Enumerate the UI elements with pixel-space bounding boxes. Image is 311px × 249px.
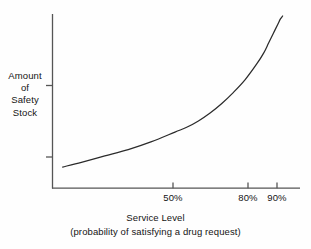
y-axis-label-line-4: Stock bbox=[2, 107, 48, 119]
safety-stock-curve bbox=[63, 16, 283, 167]
y-axis-label-line-1: Amount bbox=[2, 70, 48, 82]
x-axis-title: Service Level bbox=[0, 212, 311, 223]
x-axis-tick-label-50: 50% bbox=[158, 192, 188, 203]
y-axis-label-line-2: of bbox=[2, 82, 48, 94]
x-axis-subtitle: (probability of satisfying a drug reques… bbox=[0, 226, 311, 237]
chart-figure: Amount of Safety Stock 50% 80% 90% Servi… bbox=[0, 0, 311, 249]
y-axis-label: Amount of Safety Stock bbox=[2, 70, 48, 119]
x-axis-tick-label-90: 90% bbox=[262, 192, 292, 203]
y-axis-label-line-3: Safety bbox=[2, 94, 48, 106]
x-axis-tick-label-80: 80% bbox=[233, 192, 263, 203]
